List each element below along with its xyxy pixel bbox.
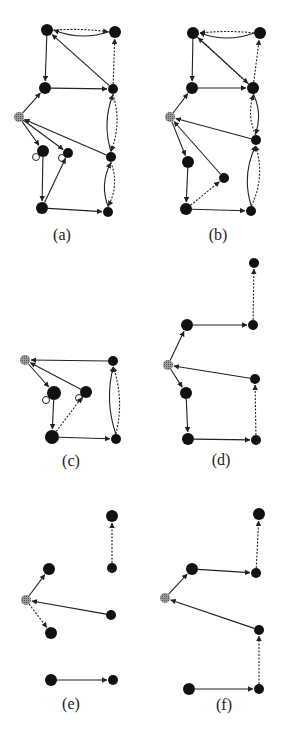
panel-f bbox=[160, 508, 265, 695]
graph-node bbox=[37, 145, 49, 157]
graph-node bbox=[45, 627, 57, 639]
edge-b4-to-b2-dashed bbox=[254, 40, 259, 82]
graph-node bbox=[43, 563, 55, 575]
panel-label-c: (c) bbox=[62, 452, 80, 470]
panel-b bbox=[165, 27, 266, 216]
panel-d bbox=[163, 258, 261, 445]
edge-a5-to-a8 bbox=[42, 157, 43, 201]
panel-c bbox=[20, 355, 121, 444]
graph-node bbox=[247, 82, 259, 94]
graph-node bbox=[182, 433, 194, 445]
edge-d0-to-d2 bbox=[170, 331, 184, 360]
edge-c5-to-c1 bbox=[109, 367, 115, 434]
graph-node bbox=[181, 319, 193, 331]
graph-node bbox=[183, 683, 195, 695]
edge-d4-to-d0 bbox=[174, 366, 250, 378]
graph-node bbox=[187, 27, 199, 39]
edge-a1-to-a3 bbox=[45, 36, 47, 81]
graph-node bbox=[80, 386, 92, 398]
edge-c4-to-c3-dashed bbox=[56, 398, 82, 432]
graph-node bbox=[248, 320, 258, 330]
edge-a2-to-a1 bbox=[54, 30, 109, 36]
graph-node bbox=[251, 568, 261, 578]
edge-a0-to-a3 bbox=[22, 93, 40, 113]
edge-b5-to-b4-dashed bbox=[250, 95, 255, 135]
edge-c4-to-c5 bbox=[59, 437, 110, 439]
edge-b7-to-b0 bbox=[174, 121, 221, 174]
graph-node bbox=[254, 625, 264, 635]
graph-node bbox=[251, 135, 261, 145]
edge-b6-to-b8 bbox=[186, 168, 187, 202]
edge-a7-to-a4 bbox=[107, 95, 113, 152]
graph-node bbox=[109, 26, 121, 38]
graph-node bbox=[36, 202, 48, 214]
edge-a4-to-a2-dashed bbox=[113, 39, 115, 84]
edge-c3-to-c0 bbox=[30, 363, 80, 389]
edge-b2-to-b1-dashed bbox=[200, 32, 254, 34]
root-node bbox=[14, 112, 24, 122]
graph-node bbox=[103, 207, 113, 217]
edge-d7-to-d4-dashed bbox=[255, 385, 256, 435]
graph-node bbox=[182, 156, 194, 168]
edge-d3-to-d1-dashed bbox=[253, 269, 254, 320]
root-node bbox=[163, 360, 173, 370]
graph-node bbox=[254, 27, 266, 39]
edge-a3-to-a4 bbox=[51, 88, 107, 89]
edge-c5-to-c1-dashed bbox=[113, 367, 119, 434]
graph-node bbox=[180, 203, 192, 215]
edge-a8-to-a9 bbox=[48, 208, 102, 211]
edge-b0-to-b3 bbox=[173, 94, 188, 113]
edge-a1-to-a2-dashed bbox=[53, 29, 108, 31]
edge-f0-to-f2 bbox=[168, 574, 187, 594]
panel-label-a: (a) bbox=[53, 226, 71, 244]
graph-node bbox=[45, 430, 59, 444]
edge-e0-to-e3 bbox=[29, 575, 45, 596]
edge-a8-to-a6 bbox=[45, 158, 66, 202]
panels-layer bbox=[14, 24, 266, 695]
edge-a9-to-a7 bbox=[104, 163, 110, 207]
graph-node bbox=[254, 684, 264, 694]
root-node bbox=[21, 595, 31, 605]
graph-node bbox=[251, 435, 261, 445]
edge-a4-to-a1 bbox=[52, 35, 109, 86]
edge-e0-to-e5-dashed bbox=[29, 604, 47, 627]
graph-node bbox=[246, 206, 256, 216]
edge-b8-to-b9 bbox=[192, 209, 245, 211]
graph-node bbox=[108, 675, 118, 685]
edge-b1-to-b3 bbox=[192, 39, 193, 81]
graph-figure-canvas bbox=[0, 0, 288, 730]
root-node bbox=[165, 112, 175, 122]
graph-node bbox=[108, 356, 118, 366]
graph-node bbox=[106, 510, 118, 522]
edge-a7-to-a9-dashed bbox=[108, 162, 114, 206]
panel-label-f: (f) bbox=[216, 696, 232, 714]
edge-d0-to-d5 bbox=[171, 369, 183, 387]
graph-node bbox=[219, 173, 229, 183]
graph-node bbox=[63, 148, 73, 158]
edge-f2-to-f3 bbox=[198, 569, 250, 572]
edge-a4-to-a7-dashed bbox=[111, 94, 117, 151]
edge-b4-to-b5 bbox=[253, 94, 258, 134]
graph-node bbox=[250, 374, 260, 384]
edge-d6-to-d7 bbox=[194, 439, 250, 440]
graph-node bbox=[106, 610, 116, 620]
graph-node bbox=[106, 152, 116, 162]
edge-c2-to-c4 bbox=[52, 400, 53, 429]
graph-node bbox=[253, 508, 265, 520]
edge-d5-to-d6 bbox=[186, 399, 187, 432]
graph-node bbox=[186, 82, 198, 94]
graph-node bbox=[39, 82, 51, 94]
graph-node bbox=[108, 84, 118, 94]
graph-node bbox=[47, 386, 61, 400]
graph-node bbox=[111, 434, 121, 444]
edge-b2-to-b1 bbox=[200, 33, 254, 38]
panel-a bbox=[14, 24, 121, 217]
edge-b9-to-b5-dashed bbox=[251, 146, 259, 206]
edge-f3-to-f1-dashed bbox=[256, 521, 258, 568]
graph-node bbox=[107, 563, 117, 573]
graph-node bbox=[249, 258, 259, 268]
edge-b8-to-b7-dashed bbox=[191, 182, 220, 205]
graph-node bbox=[41, 24, 53, 36]
graph-node bbox=[186, 563, 198, 575]
self-loop-c2 bbox=[43, 397, 50, 404]
